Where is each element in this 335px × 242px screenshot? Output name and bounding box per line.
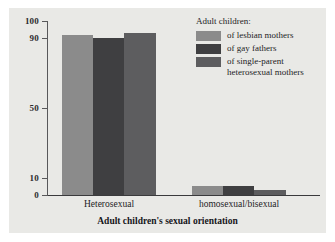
bar bbox=[223, 186, 254, 195]
legend-entry: of lesbian mothers bbox=[196, 30, 324, 41]
legend-entry: of gay fathers bbox=[196, 43, 324, 54]
bar bbox=[93, 38, 124, 195]
chart-legend: Adult children: of lesbian mothersof gay… bbox=[196, 16, 324, 79]
legend-title: Adult children: bbox=[196, 16, 324, 27]
y-axis-tick-label: 90 bbox=[5, 34, 39, 43]
bar-group-heterosexual bbox=[62, 20, 156, 195]
y-axis-tick-label: 0 bbox=[5, 191, 39, 200]
y-axis-tick-label: 10 bbox=[5, 174, 39, 183]
y-axis-tick-mark bbox=[42, 178, 48, 179]
y-axis-tick-mark bbox=[42, 21, 48, 22]
legend-swatch bbox=[196, 31, 221, 41]
y-axis-tick-mark bbox=[42, 195, 48, 196]
legend-entry-list: of lesbian mothersof gay fathersof singl… bbox=[196, 30, 324, 77]
x-axis-line bbox=[47, 195, 320, 196]
x-axis-category-label: Heterosexual bbox=[62, 198, 156, 210]
bar bbox=[124, 33, 156, 195]
legend-label: of single-parent heterosexual mothers bbox=[227, 56, 324, 77]
y-axis-tick-mark bbox=[42, 38, 48, 39]
legend-swatch bbox=[196, 57, 221, 67]
chart-figure: 0105090100 Heterosexual homosexual/bisex… bbox=[0, 0, 335, 242]
legend-label: of lesbian mothers bbox=[227, 30, 294, 41]
bar bbox=[192, 186, 223, 195]
x-axis-title: Adult children's sexual orientation bbox=[9, 215, 326, 227]
bar bbox=[62, 35, 93, 195]
y-axis-tick-mark bbox=[42, 108, 48, 109]
x-axis-category-label: homosexual/bisexual bbox=[178, 198, 300, 210]
y-axis-tick-label: 50 bbox=[5, 104, 39, 113]
bar bbox=[254, 190, 286, 195]
y-axis-tick-label: 100 bbox=[5, 17, 39, 26]
legend-swatch bbox=[196, 44, 221, 54]
legend-entry: of single-parent heterosexual mothers bbox=[196, 56, 324, 77]
legend-label: of gay fathers bbox=[227, 43, 276, 54]
